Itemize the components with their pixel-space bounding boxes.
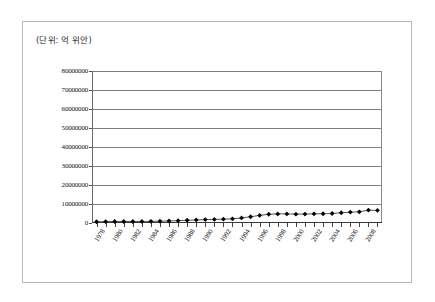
- data-point-marker: [248, 214, 253, 219]
- y-axis-tick-label: 40000000: [62, 143, 88, 151]
- x-axis-tick-label: 1988: [183, 228, 197, 243]
- x-axis-tick-label: 1978: [92, 228, 106, 243]
- data-point-marker: [167, 219, 172, 224]
- data-point-marker: [130, 219, 135, 224]
- y-axis-tick-label: 70000000: [62, 86, 88, 94]
- data-point-marker: [230, 216, 235, 221]
- data-point-marker: [312, 211, 317, 216]
- x-axis-tick-mark: [260, 223, 261, 227]
- data-point-marker: [239, 216, 244, 221]
- data-point-marker: [348, 210, 353, 215]
- x-axis-tick-mark: [251, 223, 252, 227]
- data-point-marker: [139, 219, 144, 224]
- x-axis-tick-label: 2008: [364, 228, 378, 243]
- data-point-marker: [185, 218, 190, 223]
- data-point-marker: [221, 217, 226, 222]
- data-point-marker: [158, 219, 163, 224]
- x-axis-tick-mark: [205, 223, 206, 227]
- data-point-marker: [212, 217, 217, 222]
- data-point-marker: [357, 209, 362, 214]
- y-axis-tick-label: 0: [85, 219, 88, 227]
- x-axis-tick-label: 1990: [201, 228, 215, 243]
- y-axis-tick-label: 20000000: [62, 181, 88, 189]
- data-point-marker: [257, 213, 262, 218]
- x-axis-tick-mark: [287, 223, 288, 227]
- x-axis-tick-mark: [314, 223, 315, 227]
- data-point-marker: [275, 211, 280, 216]
- y-axis-tick-label: 60000000: [62, 105, 88, 113]
- x-axis-tick-mark: [169, 223, 170, 227]
- x-axis-tick-mark: [323, 223, 324, 227]
- x-axis-tick-label: 1996: [255, 228, 269, 243]
- x-axis-tick-label: 1986: [165, 228, 179, 243]
- data-point-marker: [121, 219, 126, 224]
- x-axis-tick-mark: [296, 223, 297, 227]
- x-axis-tick-mark: [332, 223, 333, 227]
- x-axis-tick-mark: [187, 223, 188, 227]
- y-axis-tick-label: 80000000: [62, 67, 88, 75]
- chart-plot-wrapper: 8000000070000000600000005000000040000000…: [23, 22, 413, 284]
- x-axis-tick-mark: [178, 223, 179, 227]
- data-point-marker: [284, 211, 289, 216]
- x-axis-tick-mark: [350, 223, 351, 227]
- data-point-marker: [203, 217, 208, 222]
- data-point-marker: [103, 219, 108, 224]
- series-line: [97, 210, 378, 222]
- data-point-marker: [330, 211, 335, 216]
- data-point-marker: [94, 219, 99, 224]
- y-axis-tick-label: 30000000: [62, 162, 88, 170]
- x-axis-tick-label: 1980: [110, 228, 124, 243]
- data-point-marker: [375, 208, 380, 213]
- x-axis-tick-mark: [269, 223, 270, 227]
- data-point-marker: [294, 212, 299, 217]
- x-axis-tick-label: 1982: [129, 228, 143, 243]
- x-axis-tick-label: 1994: [237, 228, 251, 243]
- x-axis-tick-mark: [368, 223, 369, 227]
- x-axis-tick-mark: [305, 223, 306, 227]
- x-axis-tick-mark: [341, 223, 342, 227]
- figure-frame: (단위: 억 위안) 80000000700000006000000050000…: [22, 21, 412, 283]
- data-point-marker: [194, 218, 199, 223]
- x-axis-tick-mark: [359, 223, 360, 227]
- x-axis-tick-mark: [377, 223, 378, 227]
- x-axis-tick-mark: [223, 223, 224, 227]
- x-axis-tick-label: 1984: [147, 228, 161, 243]
- data-point-marker: [112, 219, 117, 224]
- x-axis-tick-label: 2006: [346, 228, 360, 243]
- y-axis-tick-label: 50000000: [62, 124, 88, 132]
- data-point-marker: [176, 218, 181, 223]
- x-axis-tick-label: 2004: [328, 228, 342, 243]
- chart-plot-area: 8000000070000000600000005000000040000000…: [92, 71, 382, 223]
- data-point-marker: [366, 208, 371, 213]
- x-axis-tick-mark: [160, 223, 161, 227]
- x-axis-tick-mark: [196, 223, 197, 227]
- data-point-marker: [339, 210, 344, 215]
- data-series-svg: [92, 71, 382, 223]
- y-axis-tick-label: 10000000: [62, 200, 88, 208]
- x-axis-tick-mark: [214, 223, 215, 227]
- x-axis-tick-label: 1992: [219, 228, 233, 243]
- x-axis-tick-mark: [242, 223, 243, 227]
- x-axis-tick-mark: [278, 223, 279, 227]
- data-point-marker: [303, 212, 308, 217]
- data-point-marker: [149, 219, 154, 224]
- x-axis-tick-mark: [232, 223, 233, 227]
- y-axis-tick-mark: [89, 223, 92, 224]
- x-axis-tick-label: 2000: [292, 228, 306, 243]
- data-point-marker: [321, 211, 326, 216]
- data-point-marker: [266, 212, 271, 217]
- x-axis-tick-label: 2002: [310, 228, 324, 243]
- x-axis-tick-label: 1998: [274, 228, 288, 243]
